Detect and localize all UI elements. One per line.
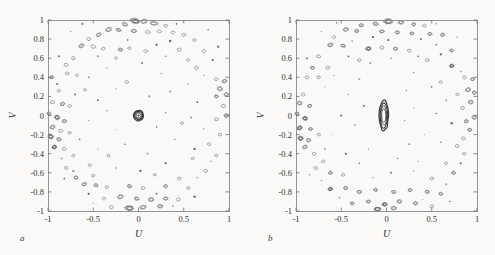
contour-ring [225,93,228,96]
contour-island [397,200,402,204]
contour-island [423,24,427,27]
contour-ring [117,29,121,31]
contour-ring [441,34,444,36]
contour-island [357,190,362,193]
contour-ring [383,203,386,205]
x-tick-label: -1 [44,214,51,224]
contour-speck [193,196,195,198]
contour-speck [97,148,98,149]
contour-island [472,91,476,95]
contour-island [393,47,397,50]
contour-speck [363,105,365,107]
contour-island [47,112,51,116]
contour-speck [449,201,451,203]
contour-speck [63,178,65,180]
contour-island [71,57,75,60]
contour-speck [404,120,405,121]
y-tick-label: 0.4 [33,72,44,82]
contour-ring [102,197,105,200]
contour-island [57,138,62,142]
contour-speck [424,134,425,135]
contour-ring [428,33,431,35]
contour-island [380,30,385,33]
contour-speck [387,39,389,41]
contour-island [176,198,180,201]
contour-island [439,192,443,195]
contour-ring [107,154,110,156]
contour-island [366,200,371,203]
contour-speck [203,75,204,76]
contour-speck [106,110,108,112]
contour-island [186,59,189,61]
contour-island [57,89,60,92]
contour-ring [101,47,105,50]
x-tick-label: 0 [136,214,140,224]
contour-ring [358,191,361,193]
contour-island [328,171,332,174]
contour-ring [218,133,221,136]
contour-ring [75,74,78,77]
contour-island [332,36,336,39]
contour-island [357,59,361,62]
contour-island [215,154,218,157]
contour-island [222,79,227,83]
contour-ring [195,66,199,69]
contour-island [317,133,320,136]
contour-ring [463,152,466,155]
contour-ring [109,206,113,209]
contour-speck [88,193,90,195]
contour-island [157,205,163,208]
contour-island [428,32,432,35]
contour-ring [82,183,85,186]
x-tick-label: 1 [475,214,479,224]
contour-island [109,206,113,209]
contour-speck [58,55,60,57]
contour-speck [445,99,447,101]
contour-island [177,48,181,51]
contour-island [79,44,84,48]
contour-ring [86,38,90,41]
contour-ring [164,185,167,187]
contour-island [68,131,71,133]
y-tick-label: -1 [37,206,44,216]
contour-island [140,205,146,209]
contour-ring [193,39,196,42]
contour-island [50,125,55,129]
contour-island [297,126,303,130]
contour-speck [372,177,373,178]
contour-island [187,187,190,190]
contour-island [55,115,60,120]
contour-island [72,154,75,157]
contour-speck [106,67,108,69]
contour-speck [79,139,81,141]
contour-island [307,104,311,107]
contour-ring [425,59,429,62]
contour-island [141,19,148,23]
mainlobe [134,110,144,121]
contour-ring [367,200,370,202]
panel-caption: b [268,233,273,243]
contour-ring [191,157,194,159]
contour-island [465,88,470,92]
contour-ring [71,57,75,60]
contour-ring [298,102,301,105]
contour-island [84,89,87,91]
contour-island [107,154,110,156]
contour-speck [174,139,176,141]
contour-ring [68,105,71,108]
contour-speck [456,37,457,38]
contour-ring [311,67,314,69]
contour-ring [332,36,336,39]
contour-speck [124,143,126,145]
contour-speck [56,83,58,85]
contour-ring [53,146,56,148]
contour-ring [439,81,442,84]
x-tick-label: 0.5 [178,214,189,224]
contour-island [391,191,396,194]
contour-speck [358,78,360,80]
contour-speck [61,158,63,160]
contour-ring [105,186,109,189]
contour-ring [430,177,434,180]
contour-island [440,33,445,36]
contour-island [60,102,64,106]
